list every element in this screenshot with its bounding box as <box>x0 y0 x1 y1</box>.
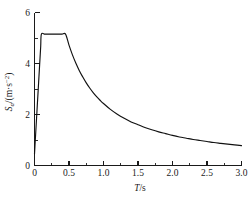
x-tick-label: 3.0 <box>236 168 248 178</box>
x-axis-title: T/s <box>134 183 146 193</box>
y-tick-label: 4 <box>25 59 30 69</box>
x-axis-title-unit: s <box>142 183 146 193</box>
x-tick-label: 2.0 <box>167 168 179 178</box>
response-spectrum-chart: 0 0.5 1.0 1.5 2.0 2.5 3.0 0 2 4 6 T/s Sa… <box>0 0 252 198</box>
x-tick-label: 0 <box>32 168 37 178</box>
x-tick-label: 0.5 <box>63 168 75 178</box>
x-axis-major-ticks <box>35 161 242 166</box>
y-tick-label: 0 <box>25 161 30 171</box>
spectrum-curve <box>35 33 242 154</box>
y-axis-title: Sa/(m·s−2) <box>3 73 15 112</box>
x-tick-label: 1.0 <box>98 168 110 178</box>
y-tick-label: 6 <box>25 8 30 18</box>
x-axis-tick-labels: 0 0.5 1.0 1.5 2.0 2.5 3.0 <box>32 168 248 178</box>
chart-figure: 0 0.5 1.0 1.5 2.0 2.5 3.0 0 2 4 6 T/s Sa… <box>0 0 252 198</box>
x-tick-label: 2.5 <box>201 168 213 178</box>
y-axis-tick-labels: 0 2 4 6 <box>25 8 30 171</box>
y-tick-label: 2 <box>25 110 30 120</box>
y-axis-title-unit-open: /(m·s <box>4 83 15 103</box>
y-axis-title-unit-close: ) <box>4 73 15 76</box>
x-tick-label: 1.5 <box>132 168 144 178</box>
